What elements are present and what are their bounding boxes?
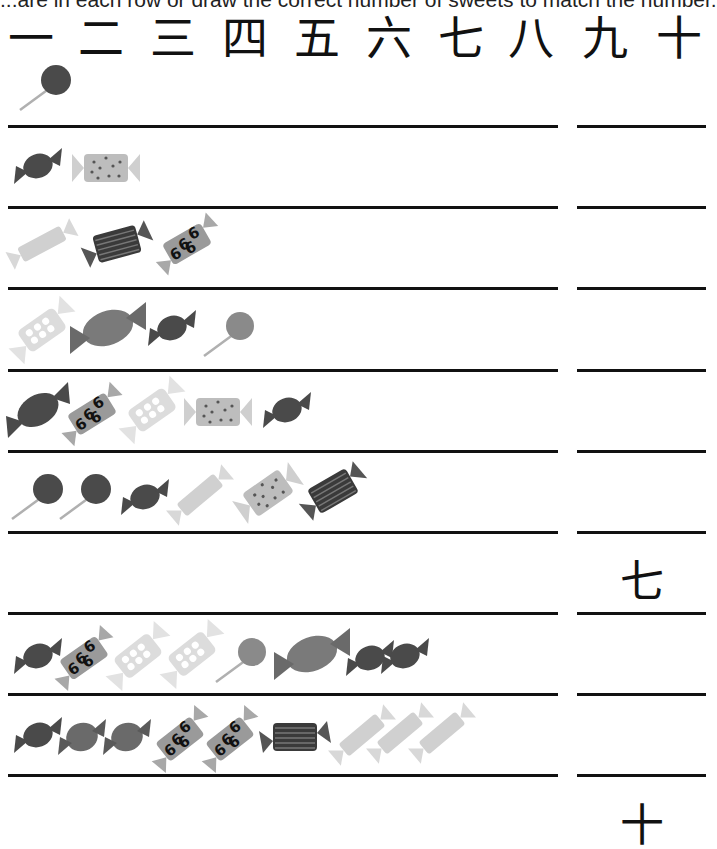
sweets-icons [0, 697, 560, 777]
answer-line-7[interactable] [577, 612, 706, 615]
sweets-row-7[interactable] [0, 536, 560, 616]
answer-line-3[interactable] [577, 287, 706, 290]
sweets-icons [0, 130, 560, 210]
row-line-9 [8, 774, 558, 777]
lollipop-icon [0, 46, 560, 126]
sweets-row-2 [0, 130, 560, 210]
answer-numeral-7: 七 [577, 546, 707, 610]
sweets-icons [0, 372, 560, 452]
row-line-8 [8, 693, 558, 696]
answer-line-9[interactable] [577, 774, 706, 777]
answer-numeral-10: 十 [577, 790, 707, 849]
row-line-1 [8, 125, 558, 128]
sweets-icons [0, 290, 560, 370]
row-line-6 [8, 531, 558, 534]
sweets-row-1 [0, 46, 560, 126]
row-line-2 [8, 206, 558, 209]
answer-line-2[interactable] [577, 206, 706, 209]
row-line-5 [8, 450, 558, 453]
numeral-10: 十 [656, 8, 702, 68]
answer-line-5[interactable] [577, 450, 706, 453]
row-line-7 [8, 612, 558, 615]
sweets-row-8 [0, 616, 560, 696]
sweets-row-4 [0, 290, 560, 370]
sweets-row-9 [0, 697, 560, 777]
sweets-row-5 [0, 372, 560, 452]
answer-line-8[interactable] [577, 693, 706, 696]
sweets-row-3 [0, 210, 560, 290]
sweets-row-6 [0, 455, 560, 535]
answer-line-1[interactable] [577, 125, 706, 128]
sweets-row-10[interactable] [0, 778, 560, 849]
sweets-icons [0, 455, 560, 535]
sweets-icons [0, 616, 560, 696]
numeral-9: 九 [582, 8, 628, 68]
answer-line-6[interactable] [577, 531, 706, 534]
sweets-icons [0, 210, 560, 290]
answer-line-4[interactable] [577, 369, 706, 372]
